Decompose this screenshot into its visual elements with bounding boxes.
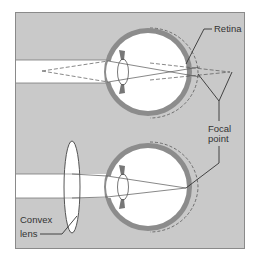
retina-label: Retina	[214, 23, 242, 34]
convex-lens-label-line2: lens	[20, 228, 38, 239]
light-beam-top	[16, 60, 116, 83]
convex-lens	[64, 141, 80, 233]
convex-lens-label-line1: Convex	[20, 214, 52, 225]
eye-focus-diagram: Retina Focal point Convex	[0, 0, 258, 258]
focal-point-label-line2: point	[208, 133, 229, 144]
